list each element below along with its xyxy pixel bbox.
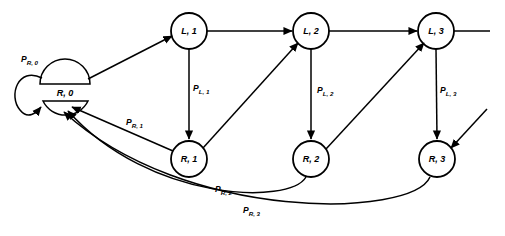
edge-l3-to-r3[interactable] — [436, 49, 437, 139]
edge-label-pr1: PR, 1 — [126, 117, 143, 129]
edge-label-pl1-sub: L, 1 — [199, 88, 210, 95]
edge-r2-to-l3[interactable] — [326, 43, 424, 149]
node-r0-top-half — [40, 59, 90, 84]
node-label-l1: L, 1 — [180, 27, 198, 36]
edge-label-pr2-sub: R, 2 — [221, 189, 232, 196]
edge-label-pr0-sub: R, 0 — [27, 59, 38, 66]
node-label-r3: R, 3 — [428, 155, 447, 164]
edge-label-pl2: PL, 2 — [317, 85, 333, 97]
node-label-l3: L, 3 — [427, 27, 445, 36]
edge-r3-to-r0[interactable] — [64, 112, 430, 204]
edge-r0-to-l1[interactable] — [88, 36, 172, 79]
edge-label-pr3-sub: R, 3 — [249, 210, 260, 217]
node-label-r1: R, 1 — [180, 155, 199, 164]
edge-r0-self-loop[interactable] — [15, 75, 42, 115]
node-label-r0: R, 0 — [56, 89, 75, 98]
edge-label-pl3: PL, 3 — [440, 85, 456, 97]
edge-label-pr3: PR, 3 — [243, 205, 260, 217]
edge-label-pr2: PR, 2 — [215, 184, 232, 196]
edge-label-pl1: PL, 1 — [193, 83, 209, 95]
edge-incoming-stub-to-r3[interactable] — [451, 109, 487, 148]
node-label-l2: L, 2 — [302, 27, 320, 36]
state-diagram: R, 0 L, 1 L, 2 L, 3 R, 1 R, 2 R, 3 PR, 0… — [0, 0, 505, 236]
node-label-r2: R, 2 — [302, 155, 321, 164]
edge-label-pl3-sub: L, 3 — [446, 90, 457, 97]
edge-label-pl2-sub: L, 2 — [323, 90, 334, 97]
edge-label-pr1-sub: R, 1 — [132, 122, 143, 129]
edge-label-pr0: PR, 0 — [21, 54, 38, 66]
edge-r1-to-l2[interactable] — [203, 43, 298, 148]
